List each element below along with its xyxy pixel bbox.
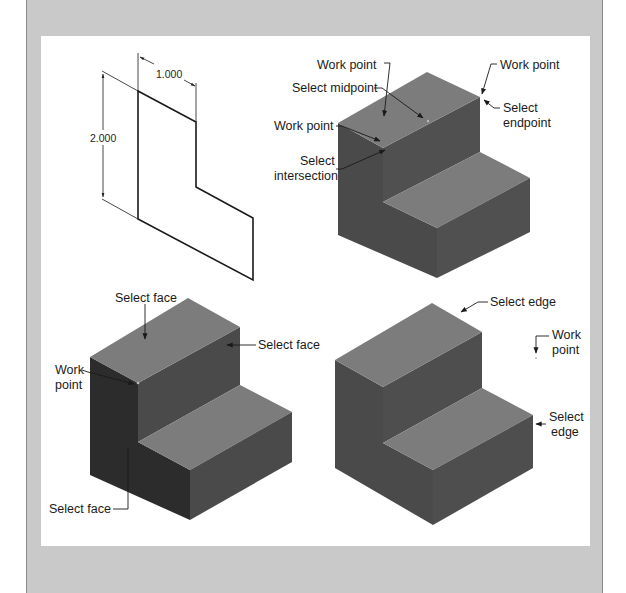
label-work-point-left: Work point	[274, 119, 334, 134]
label-work-point-2: point	[55, 378, 82, 393]
label-select-endpoint-1: Select	[503, 101, 538, 116]
label-select-edge-top: Select edge	[490, 295, 556, 310]
label-work-point-top: Work point	[317, 58, 377, 73]
label-select-midpoint: Select midpoint	[292, 81, 377, 96]
label-work-point-corner: Work point	[500, 58, 560, 73]
solid-bottom-left	[82, 298, 292, 520]
label-select-face-top: Select face	[115, 291, 177, 306]
dimension-height-label: 2.000	[90, 132, 116, 144]
dimension-width-label: 1.000	[156, 68, 182, 80]
label-select-edge-1: Select	[549, 410, 584, 425]
label-select-endpoint-2: endpoint	[503, 116, 551, 131]
label-select-intersection-2: intersection	[274, 169, 338, 184]
label-select-face-left: Select face	[49, 502, 111, 517]
sketch-2d	[102, 53, 253, 280]
label-select-edge-2: edge	[551, 425, 579, 440]
label-work-point-2: point	[552, 343, 579, 358]
label-select-face-front: Select face	[258, 338, 320, 353]
label-work-point-1: Work	[55, 363, 84, 378]
sketch-profile	[138, 91, 253, 280]
label-select-intersection-1: Select	[300, 154, 335, 169]
solid-bottom-right	[335, 302, 549, 525]
label-work-point-1: Work	[552, 328, 581, 343]
